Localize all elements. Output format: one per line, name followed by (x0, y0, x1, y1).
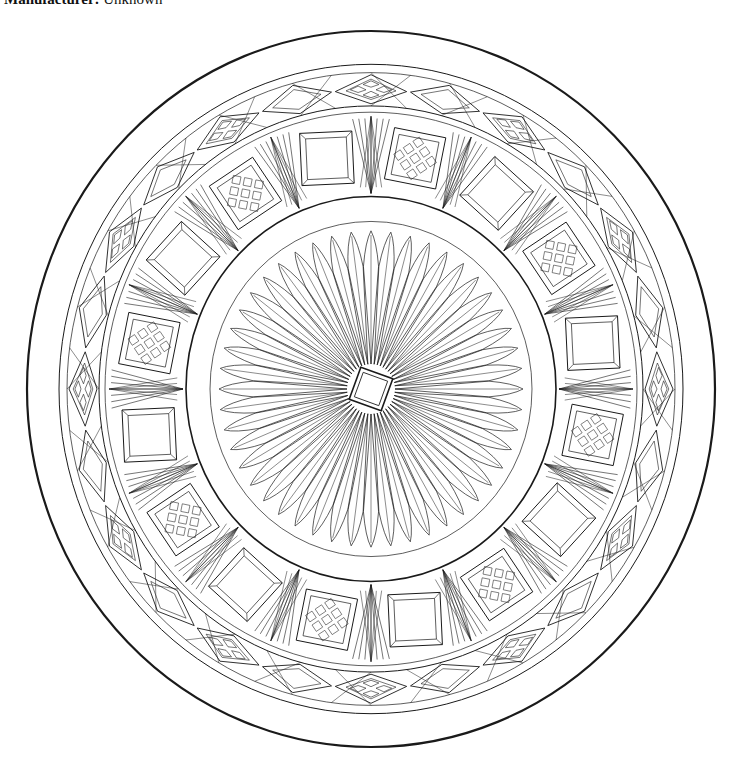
plate-drawing (0, 0, 740, 770)
center-square-icon (349, 367, 393, 411)
